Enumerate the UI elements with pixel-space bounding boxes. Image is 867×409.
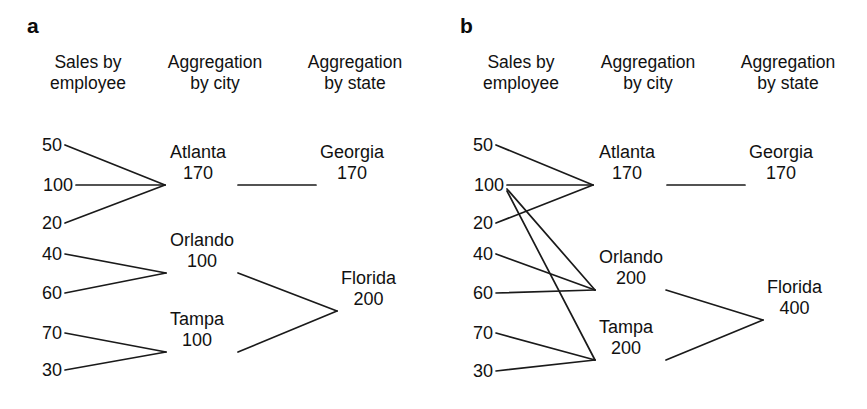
- panel-a: a Sales by employee Aggregation by city …: [0, 0, 433, 409]
- panel-a-city-node: Orlando 100: [170, 230, 234, 272]
- city-value: 170: [599, 163, 655, 184]
- panel-b-employee-value: 50: [473, 135, 493, 156]
- city-value: 100: [170, 251, 234, 272]
- state-value: 200: [341, 289, 396, 310]
- panel-b: b Sales by employee Aggregation by city …: [433, 0, 866, 409]
- panel-b-state-node: Florida 400: [767, 277, 822, 319]
- edge-orlando-florida: [238, 273, 337, 311]
- state-value: 400: [767, 298, 822, 319]
- panel-a-state-node: Florida 200: [341, 268, 396, 310]
- panel-a-employee-value: 100: [43, 175, 73, 196]
- city-value: 200: [599, 268, 663, 289]
- city-value: 100: [170, 330, 224, 351]
- figure-root: a Sales by employee Aggregation by city …: [0, 0, 867, 409]
- panel-b-employee-value: 30: [473, 361, 493, 382]
- state-value: 170: [320, 163, 384, 184]
- edge-70-tampa: [65, 333, 166, 352]
- edge-tampa-florida: [238, 311, 337, 352]
- edge-30-tampa: [65, 352, 166, 370]
- panel-b-employee-value: 100: [474, 175, 504, 196]
- state-value: 170: [749, 163, 813, 184]
- edge-tampa-florida: [666, 320, 763, 360]
- edge-40-orlando: [65, 254, 166, 273]
- panel-a-city-node: Tampa 100: [170, 309, 224, 351]
- city-value: 200: [599, 338, 653, 359]
- edge-50-atlanta: [496, 145, 593, 185]
- state-name: Georgia: [320, 142, 384, 163]
- panel-b-city-node: Atlanta 170: [599, 142, 655, 184]
- panel-a-state-node: Georgia 170: [320, 142, 384, 184]
- city-name: Orlando: [170, 230, 234, 251]
- city-name: Tampa: [170, 309, 224, 330]
- panel-a-city-node: Atlanta 170: [170, 142, 226, 184]
- edge-orlando-florida: [666, 290, 763, 320]
- edge-70-tampa: [496, 333, 595, 360]
- panel-a-employee-value: 60: [42, 283, 62, 304]
- panel-b-employee-value: 40: [473, 244, 493, 265]
- city-name: Atlanta: [599, 142, 655, 163]
- panel-a-employee-value: 50: [42, 135, 62, 156]
- panel-a-employee-value: 30: [42, 360, 62, 381]
- edge-20-atlanta: [496, 185, 593, 223]
- edge-60-orlando: [65, 273, 166, 293]
- panel-a-employee-value: 20: [42, 213, 62, 234]
- edge-30-tampa: [496, 360, 595, 371]
- panel-b-city-node: Orlando 200: [599, 247, 663, 289]
- city-name: Orlando: [599, 247, 663, 268]
- panel-a-employee-value: 70: [42, 323, 62, 344]
- edge-50-atlanta: [65, 145, 165, 185]
- edge-20-atlanta: [65, 185, 165, 223]
- city-name: Atlanta: [170, 142, 226, 163]
- state-name: Florida: [341, 268, 396, 289]
- city-name: Tampa: [599, 317, 653, 338]
- state-name: Georgia: [749, 142, 813, 163]
- city-value: 170: [170, 163, 226, 184]
- panel-b-state-node: Georgia 170: [749, 142, 813, 184]
- edge-60-orlando: [496, 290, 595, 293]
- panel-b-employee-value: 20: [473, 213, 493, 234]
- panel-b-employee-value: 70: [473, 323, 493, 344]
- state-name: Florida: [767, 277, 822, 298]
- panel-a-employee-value: 40: [42, 244, 62, 265]
- panel-b-employee-value: 60: [473, 283, 493, 304]
- panel-b-city-node: Tampa 200: [599, 317, 653, 359]
